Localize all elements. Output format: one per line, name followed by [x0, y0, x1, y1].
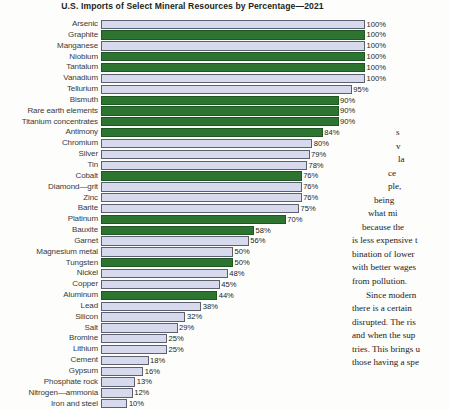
bar-category-label: Graphite — [0, 30, 101, 41]
bar-value-label: 95% — [352, 85, 369, 94]
bar-track: 100% — [101, 19, 449, 30]
bar-value-label: 10% — [127, 399, 144, 408]
bar-category-label: Vanadium — [0, 73, 101, 84]
page-root: U.S. Imports of Select Mineral Resources… — [0, 0, 449, 410]
bar-row: Graphite100% — [0, 30, 449, 41]
bar-category-label: Rare earth elements — [0, 106, 101, 117]
bar-category-label: Phosphate rock — [0, 377, 101, 388]
body-text-line: from pollution. — [352, 275, 449, 289]
body-text-line: ce — [352, 167, 449, 181]
bar-category-label: Salt — [0, 323, 101, 334]
bar — [101, 63, 365, 72]
body-text-line: with better wages — [352, 261, 449, 275]
bar — [101, 150, 310, 159]
bar-category-label: Cement — [0, 355, 101, 366]
bar — [101, 377, 135, 386]
bar-value-label: 75% — [299, 204, 316, 213]
bar-value-label: 13% — [135, 377, 152, 386]
bar-value-label: 76% — [302, 171, 319, 180]
bar-category-label: Tungsten — [0, 258, 101, 269]
bar-category-label: Nickel — [0, 268, 101, 279]
bar-value-label: 76% — [302, 193, 319, 202]
bar-category-label: Tellurium — [0, 84, 101, 95]
bar-track: 100% — [101, 41, 449, 52]
bar-category-label: Magnesium metal — [0, 247, 101, 258]
bar-value-label: 90% — [339, 96, 356, 105]
bar-value-label: 25% — [167, 334, 184, 343]
bar-category-label: Silver — [0, 149, 101, 160]
bar — [101, 139, 312, 148]
body-text-line: is less expensive t — [352, 234, 449, 248]
bar — [101, 345, 167, 354]
bar — [101, 334, 167, 343]
bar-value-label: 79% — [310, 150, 327, 159]
bar-category-label: Zinc — [0, 193, 101, 204]
body-text-line: there is a certain — [352, 302, 449, 316]
bar-category-label: Iron and steel — [0, 399, 101, 410]
bar-value-label: 84% — [323, 128, 340, 137]
bar — [101, 85, 352, 94]
bar-category-label: Tantalum — [0, 62, 101, 73]
bar — [101, 193, 302, 202]
bar-category-label: Antimony — [0, 127, 101, 138]
bar-track: 100% — [101, 30, 449, 41]
bar — [101, 258, 233, 267]
bar-category-label: Bismuth — [0, 95, 101, 106]
bar-value-label: 50% — [233, 258, 250, 267]
bar-value-label: 48% — [228, 269, 245, 278]
body-text-line: those having a spe — [352, 356, 449, 370]
bar-value-label: 100% — [365, 20, 386, 29]
bar-value-label: 25% — [167, 345, 184, 354]
bar-value-label: 32% — [185, 312, 202, 321]
bar — [101, 106, 339, 115]
bar-value-label: 78% — [307, 161, 324, 170]
bar-value-label: 38% — [201, 302, 218, 311]
bar-value-label: 100% — [365, 41, 386, 50]
bar-value-label: 18% — [149, 356, 166, 365]
bar — [101, 117, 339, 126]
bar-row: Rare earth elements90% — [0, 106, 449, 117]
bar-row: Arsenic100% — [0, 19, 449, 30]
bar-value-label: 100% — [365, 52, 386, 61]
bar-value-label: 50% — [233, 247, 250, 256]
bar — [101, 280, 220, 289]
bar-value-label: 70% — [286, 215, 303, 224]
bar — [101, 356, 149, 365]
bar — [101, 161, 307, 170]
bar — [101, 302, 201, 311]
bar — [101, 291, 217, 300]
bar-category-label: Bauxite — [0, 225, 101, 236]
body-text-line: Since modern — [352, 289, 449, 303]
bar-category-label: Platinum — [0, 214, 101, 225]
bar-category-label: Lithium — [0, 344, 101, 355]
bar-value-label: 80% — [312, 139, 329, 148]
bar-value-label: 12% — [133, 388, 150, 397]
body-text-line: la — [352, 153, 449, 167]
bar-value-label: 100% — [365, 30, 386, 39]
bar-row: Bismuth90% — [0, 95, 449, 106]
body-text-line: being — [352, 194, 449, 208]
bar-value-label: 90% — [339, 106, 356, 115]
bar — [101, 52, 365, 61]
bar-track: 100% — [101, 73, 449, 84]
bar — [101, 204, 299, 213]
bar-value-label: 58% — [254, 226, 271, 235]
body-text-line: disrupted. The ris — [352, 316, 449, 330]
bar-category-label: Diamond—grit — [0, 182, 101, 193]
bar-track: 100% — [101, 62, 449, 73]
bar — [101, 182, 302, 191]
bar — [101, 96, 339, 105]
bar-category-label: Aluminum — [0, 290, 101, 301]
bar-category-label: Titanium concentrates — [0, 117, 101, 128]
body-text-line: tries. This brings u — [352, 343, 449, 357]
body-text-line: bination of lower — [352, 248, 449, 262]
bar — [101, 41, 365, 50]
bar-category-label: Manganese — [0, 41, 101, 52]
bar — [101, 20, 365, 29]
bar-category-label: Bromine — [0, 333, 101, 344]
bar — [101, 236, 249, 245]
body-text-line: what mi — [352, 207, 449, 221]
bar-category-label: Cobalt — [0, 171, 101, 182]
chart-title: U.S. Imports of Select Mineral Resources… — [0, 1, 385, 11]
bar-value-label: 56% — [249, 236, 266, 245]
